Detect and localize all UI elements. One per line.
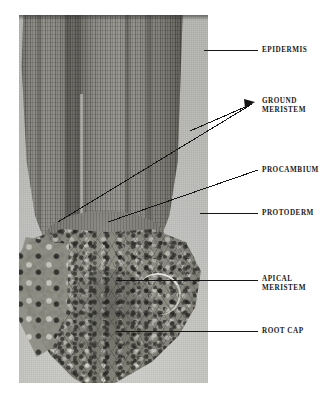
root-tip-figure: EPIDERMIS GROUND MERISTEM PROCAMBIUM PRO… <box>0 0 336 403</box>
leader-line-ground-meristem-lower <box>58 104 252 222</box>
label-apical-meristem-line2: MERISTEM <box>262 284 306 293</box>
label-root-cap-line1: ROOT CAP <box>262 327 304 336</box>
label-procambium-line1: PROCAMBIUM <box>262 166 319 175</box>
label-ground-meristem-line2: MERISTEM <box>262 106 306 115</box>
label-protoderm: PROTODERM <box>262 209 314 218</box>
leader-lines <box>0 0 336 403</box>
label-procambium: PROCAMBIUM <box>262 166 319 175</box>
label-ground-meristem: GROUND MERISTEM <box>262 97 306 116</box>
label-apical-meristem-line1: APICAL <box>262 275 306 284</box>
leader-line-ground-meristem-upper <box>190 104 252 131</box>
label-root-cap: ROOT CAP <box>262 327 304 336</box>
label-apical-meristem: APICAL MERISTEM <box>262 275 306 294</box>
label-ground-meristem-line1: GROUND <box>262 97 306 106</box>
label-epidermis: EPIDERMIS <box>262 46 307 55</box>
label-protoderm-line1: PROTODERM <box>262 209 314 218</box>
arrowhead-ground-meristem <box>244 99 255 108</box>
label-epidermis-line1: EPIDERMIS <box>262 46 307 55</box>
